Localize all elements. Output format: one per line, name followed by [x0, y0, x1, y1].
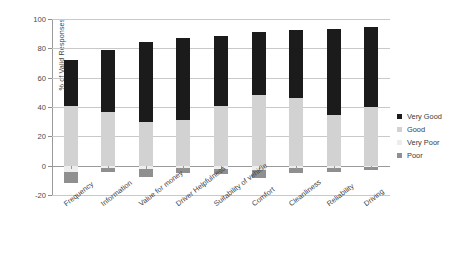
- y-axis-tick: [48, 78, 52, 79]
- y-axis-tick-label: 40: [38, 103, 46, 112]
- bar-segment-good[interactable]: [176, 120, 190, 165]
- y-axis-tick-label: 100: [33, 15, 46, 24]
- bar-segment-good[interactable]: [139, 122, 153, 165]
- bar-segment-very-good[interactable]: [289, 30, 303, 98]
- bar-segment-very-good[interactable]: [64, 60, 78, 105]
- y-axis-tick-label: 0: [42, 161, 46, 170]
- legend-item[interactable]: Poor: [397, 149, 442, 162]
- bar-segment-very-good[interactable]: [252, 32, 266, 95]
- bar-segment-good[interactable]: [64, 106, 78, 166]
- bar-segment-good[interactable]: [214, 106, 228, 165]
- legend-swatch-icon: [397, 140, 402, 145]
- bar-segment-poor[interactable]: [64, 172, 78, 183]
- bar-segment-poor[interactable]: [139, 169, 153, 176]
- bar-segment-very-good[interactable]: [139, 42, 153, 123]
- x-axis-tick: [71, 166, 72, 169]
- legend-label: Very Poor: [407, 138, 439, 147]
- bar-segment-good[interactable]: [327, 115, 341, 166]
- x-axis-tick: [296, 166, 297, 169]
- bar-segment-very-good[interactable]: [214, 36, 228, 106]
- x-axis-tick: [108, 166, 109, 169]
- chart-container: % of Valid Responses -20020406080100 Fre…: [0, 0, 466, 274]
- legend-item[interactable]: Very Poor: [397, 136, 442, 149]
- legend-swatch-icon: [397, 153, 402, 158]
- legend-label: Good: [407, 125, 425, 134]
- legend-swatch-icon: [397, 114, 402, 119]
- x-axis-tick: [146, 166, 147, 169]
- bar-segment-good[interactable]: [289, 98, 303, 165]
- bar-segment-good[interactable]: [364, 107, 378, 166]
- bar-segment-very-good[interactable]: [101, 50, 115, 112]
- y-axis-tick-label: -20: [35, 191, 46, 200]
- y-axis-tick: [48, 107, 52, 108]
- bar-segment-very-good[interactable]: [327, 29, 341, 116]
- chart-legend: Very GoodGoodVery PoorPoor: [397, 110, 442, 162]
- y-axis-tick: [48, 136, 52, 137]
- legend-label: Poor: [407, 151, 423, 160]
- y-axis-tick-label: 80: [38, 44, 46, 53]
- x-axis-tick: [183, 166, 184, 169]
- bar-segment-good[interactable]: [252, 95, 266, 165]
- bar-segment-very-good[interactable]: [364, 27, 378, 107]
- y-axis-tick: [48, 195, 52, 196]
- y-axis-tick: [48, 19, 52, 20]
- y-axis-tick: [48, 48, 52, 49]
- legend-item[interactable]: Very Good: [397, 110, 442, 123]
- x-axis-tick: [371, 166, 372, 169]
- legend-swatch-icon: [397, 127, 402, 132]
- legend-label: Very Good: [407, 112, 442, 121]
- legend-item[interactable]: Good: [397, 123, 442, 136]
- y-axis-tick-label: 20: [38, 132, 46, 141]
- y-axis-tick-label: 60: [38, 73, 46, 82]
- bar-segment-good[interactable]: [101, 112, 115, 166]
- bar-segment-very-good[interactable]: [176, 38, 190, 120]
- x-axis-tick: [334, 166, 335, 169]
